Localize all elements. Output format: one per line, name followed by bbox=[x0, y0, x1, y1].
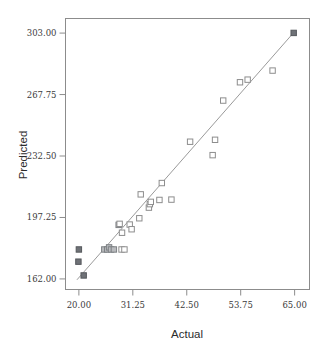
x-tick-label: 65.00 bbox=[282, 300, 306, 310]
y-tick-label: 197.25 bbox=[27, 212, 57, 222]
x-axis-ticks bbox=[79, 290, 295, 296]
data-point bbox=[291, 30, 296, 35]
data-point bbox=[210, 152, 215, 157]
x-tick-label: 53.75 bbox=[229, 300, 253, 310]
y-tick-label: 267.75 bbox=[27, 90, 57, 100]
x-tick-label: 31.25 bbox=[121, 300, 145, 310]
data-point bbox=[157, 197, 162, 202]
data-point bbox=[245, 77, 250, 82]
data-point bbox=[270, 68, 275, 73]
x-tick-label: 20.00 bbox=[67, 300, 91, 310]
data-point bbox=[117, 221, 122, 226]
data-point bbox=[187, 139, 192, 144]
data-point bbox=[76, 259, 81, 264]
x-tick-label: 42.50 bbox=[175, 300, 199, 310]
data-point bbox=[148, 199, 153, 204]
data-point bbox=[137, 216, 142, 221]
y-tick-label: 162.00 bbox=[27, 274, 57, 284]
x-axis-title: Actual bbox=[171, 328, 203, 340]
data-point bbox=[237, 80, 242, 85]
chart-canvas: 20.0031.2542.5053.7565.00 162.00197.2523… bbox=[0, 0, 324, 352]
y-axis-title: Predicted bbox=[17, 131, 29, 180]
data-point bbox=[111, 247, 116, 252]
scatter-plot-figure: 20.0031.2542.5053.7565.00 162.00197.2523… bbox=[0, 0, 324, 352]
data-point bbox=[212, 137, 217, 142]
y-axis-tick-labels: 162.00197.25232.50267.75303.00 bbox=[27, 28, 57, 284]
data-point bbox=[76, 247, 81, 252]
data-point bbox=[221, 98, 226, 103]
y-axis-ticks bbox=[60, 33, 66, 279]
data-point bbox=[138, 192, 143, 197]
data-point bbox=[159, 180, 164, 185]
fit-line bbox=[77, 33, 294, 280]
data-point bbox=[122, 247, 127, 252]
data-point bbox=[169, 197, 174, 202]
y-tick-label: 303.00 bbox=[27, 28, 57, 38]
y-tick-label: 232.50 bbox=[27, 151, 57, 161]
regression-fit-line bbox=[77, 33, 294, 280]
x-axis-tick-labels: 20.0031.2542.5053.7565.00 bbox=[67, 300, 307, 310]
data-point bbox=[129, 227, 134, 232]
data-point bbox=[119, 230, 124, 235]
data-point bbox=[81, 273, 86, 278]
